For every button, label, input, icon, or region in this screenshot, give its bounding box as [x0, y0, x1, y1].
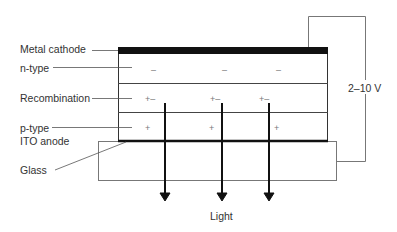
label-p-type: p-type	[20, 122, 49, 134]
label-ito-anode: ITO anode	[20, 135, 69, 147]
n-type-symbol: –	[151, 65, 156, 75]
label-voltage: 2–10 V	[348, 82, 381, 94]
n-type-symbol: –	[276, 65, 281, 75]
metal-cathode	[118, 47, 328, 54]
recombination-symbol: +–	[145, 94, 155, 104]
oled-diagram	[0, 0, 397, 232]
glass-substrate	[99, 142, 337, 181]
n-type-symbol: –	[222, 65, 227, 75]
label-metal-cathode: Metal cathode	[20, 43, 86, 55]
recombination-symbol: +–	[210, 94, 220, 104]
label-recombination: Recombination	[20, 92, 90, 104]
recombination-symbol: +–	[259, 94, 269, 104]
p-type-symbol: +	[209, 123, 214, 133]
label-light: Light	[210, 210, 233, 222]
label-n-type: n-type	[20, 62, 49, 74]
p-type-symbol: +	[145, 123, 150, 133]
p-type-symbol: +	[274, 123, 279, 133]
label-glass: Glass	[20, 164, 47, 176]
